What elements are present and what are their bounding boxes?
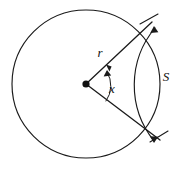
circle-center-dot: [82, 80, 89, 87]
circle-arc-figure: r x S: [0, 0, 183, 170]
angle-arc-arrowhead: [104, 70, 112, 76]
bracket-top-arrowhead: [150, 26, 158, 33]
arc-length-bracket: [134, 28, 155, 141]
lower-radius-line: [86, 84, 160, 140]
figure-canvas: r x S: [0, 0, 183, 170]
angle-label: x: [108, 81, 115, 96]
arc-length-label: S: [163, 69, 170, 84]
upper-tick-mark: [140, 14, 158, 24]
upper-radius-line: [86, 22, 152, 84]
radius-label: r: [97, 45, 103, 60]
